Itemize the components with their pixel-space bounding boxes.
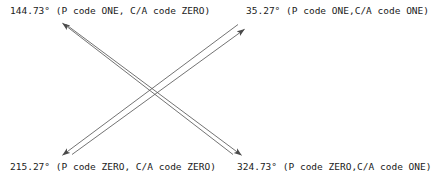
phase-label-top-left: 144.73° (P code ONE, C/A code ZERO) (10, 5, 210, 16)
arrow-215-27 (63, 25, 239, 156)
phase-label-bottom-right: 324.73° (P code ZERO,C/A code ONE) (237, 161, 431, 172)
arrow-144-73 (63, 23, 234, 154)
arrow-324-73 (66, 25, 242, 156)
arrow-vectors-group (0, 0, 444, 184)
phase-constellation-figure: 144.73° (P code ONE, C/A code ZERO) 35.2… (0, 0, 444, 184)
phase-label-bottom-left: 215.27° (P code ZERO, C/A code ZERO) (10, 161, 216, 172)
phase-label-top-right: 35.27° (P code ONE,C/A code ONE) (246, 5, 429, 16)
